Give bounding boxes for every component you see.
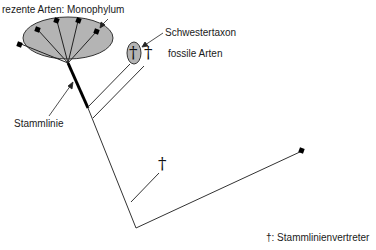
stem-line-label: Stammlinie [14, 119, 63, 129]
dagger-icon-sister-inside: † [129, 44, 138, 61]
dagger-icon-stem-fossil: † [158, 155, 167, 172]
sister-branch-inner [88, 64, 130, 107]
dagger-icon-sister-outside: † [144, 44, 153, 61]
stem-line-arrow [49, 85, 71, 116]
fossil-branch [131, 173, 159, 202]
fossil-species-label: fossile Arten [168, 49, 222, 59]
phylogeny-diagram: rezente Arten: Monophylum Schwestertaxon… [0, 0, 376, 250]
sister-taxon-label: Schwestertaxon [165, 28, 236, 38]
trunk-line [88, 108, 136, 228]
sister-branch-outer [93, 66, 144, 118]
monophylum-ellipse [23, 17, 113, 59]
monophylum-label: rezente Arten: Monophylum [2, 5, 124, 15]
legend-label: †: Stammlinienvertreter [266, 233, 369, 243]
